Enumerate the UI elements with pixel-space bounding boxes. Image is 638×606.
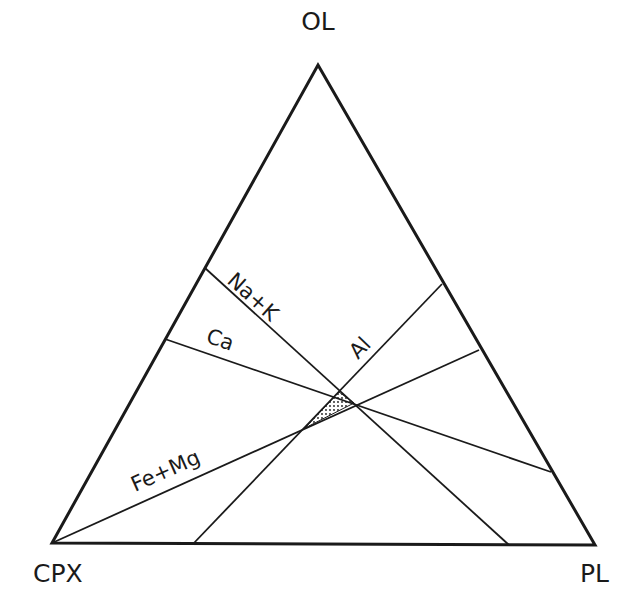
fe-mg-join-line xyxy=(52,350,479,543)
al-join-line xyxy=(193,284,442,544)
ternary-diagram: OL CPX PL Na+K Ca Al Fe+Mg xyxy=(0,0,638,606)
vertex-label-cpx: CPX xyxy=(33,559,83,588)
line-label-ca: Ca xyxy=(203,324,237,356)
vertex-label-pl: PL xyxy=(580,559,609,588)
line-label-fe-mg: Fe+Mg xyxy=(127,445,203,497)
vertex-label-ol: OL xyxy=(301,7,335,36)
line-label-na-k: Na+K xyxy=(223,268,285,327)
